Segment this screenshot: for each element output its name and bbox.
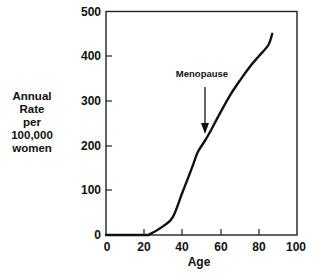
y-tick-label: 500 [81,5,101,19]
x-tick-label: 80 [252,240,266,254]
y-tick-label: 300 [81,94,101,108]
arrow-down-icon [201,123,209,134]
y-axis: 0 100 200 300 400 500 [81,5,112,242]
x-tick-label: 100 [286,240,306,254]
y-tick-label: 100 [81,183,101,197]
x-tick-label: 0 [104,240,111,254]
annotation-label: Menopause [176,68,228,79]
x-tick-label: 20 [137,240,151,254]
x-tick-label: 40 [175,240,189,254]
x-tick-label: 60 [214,240,228,254]
data-line [106,34,272,235]
y-tick-label: 0 [94,228,101,242]
y-tick-label: 200 [81,139,101,153]
x-axis-title: Age [188,255,211,269]
menopause-annotation: Menopause [176,68,228,134]
y-tick-label: 400 [81,49,101,63]
line-chart: 0 100 200 300 400 500 0 20 40 60 80 100 … [0,0,317,279]
